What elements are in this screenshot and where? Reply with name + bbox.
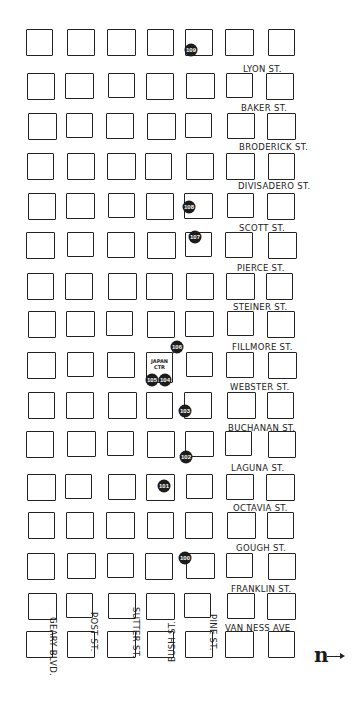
city-block — [186, 352, 213, 377]
city-block — [28, 512, 55, 539]
city-block — [67, 352, 94, 377]
city-block — [226, 73, 253, 98]
city-block — [66, 193, 95, 219]
street-label-divisadero-st: DIVISADERO ST. — [238, 181, 310, 191]
city-block — [227, 193, 254, 218]
city-block — [226, 352, 254, 378]
city-block — [108, 193, 135, 218]
city-block — [66, 113, 93, 138]
city-block — [67, 153, 95, 180]
location-marker-105[interactable]: 105 — [146, 374, 159, 387]
street-label-laguna-st: LAGUNA ST. — [231, 463, 285, 473]
city-block — [28, 193, 56, 220]
city-block — [146, 593, 175, 620]
city-block — [227, 392, 256, 419]
location-marker-100[interactable]: 100 — [179, 552, 192, 565]
location-marker-108[interactable]: 108 — [183, 201, 196, 214]
street-label-geary-blvd: GEARY BLVD. — [48, 617, 58, 676]
city-block — [227, 113, 255, 139]
city-block — [28, 593, 57, 620]
city-block — [65, 474, 92, 499]
city-block — [267, 593, 296, 620]
city-block — [27, 273, 54, 300]
street-label-lyon-st: LYON ST. — [243, 64, 282, 74]
city-block — [106, 512, 135, 539]
city-block — [268, 352, 297, 379]
city-block — [67, 431, 96, 457]
city-block — [226, 474, 254, 500]
city-block — [266, 474, 295, 501]
city-block — [106, 311, 133, 336]
street-label-steiner-st: STEINER ST. — [233, 302, 287, 312]
street-label-franklin-st: FRANKLIN ST. — [231, 584, 291, 594]
city-block — [145, 553, 173, 580]
city-block — [28, 392, 55, 419]
city-block — [186, 73, 215, 99]
city-block — [147, 232, 176, 259]
city-block — [107, 553, 134, 578]
city-block — [27, 553, 55, 580]
city-block — [26, 29, 53, 56]
city-block — [107, 153, 136, 180]
location-marker-104[interactable]: 104 — [159, 374, 172, 387]
city-block — [227, 593, 255, 619]
location-marker-106[interactable]: 106 — [171, 341, 184, 354]
city-block — [267, 193, 295, 220]
street-label-pine-st: PINE ST. — [208, 614, 218, 651]
city-block — [26, 431, 54, 458]
city-block — [268, 153, 295, 180]
street-label-baker-st: BAKER ST. — [241, 103, 287, 113]
city-block — [185, 512, 213, 539]
street-label-post-st: POST ST. — [89, 612, 99, 652]
city-block — [147, 311, 175, 338]
city-block — [226, 553, 253, 578]
city-block — [108, 273, 137, 300]
city-block — [107, 431, 134, 456]
city-block — [107, 232, 135, 258]
street-label-buchanan-st: BUCHANAN ST. — [228, 423, 295, 433]
city-block — [227, 311, 254, 336]
city-block — [67, 553, 96, 579]
city-block — [268, 553, 296, 580]
city-block — [65, 73, 94, 99]
north-arrow-icon — [327, 656, 341, 657]
city-block — [108, 474, 136, 500]
location-marker-102[interactable]: 102 — [180, 451, 193, 464]
city-block — [27, 352, 56, 379]
city-block — [267, 113, 296, 140]
street-label-scott-st: SCOTT ST. — [239, 223, 285, 233]
street-label-octavia-st: OCTAVIA ST. — [233, 503, 288, 513]
city-block — [28, 311, 56, 338]
city-block — [147, 431, 175, 458]
location-marker-103[interactable]: 103 — [179, 405, 192, 418]
city-block — [185, 113, 212, 138]
location-marker-107[interactable]: 107 — [189, 231, 202, 244]
street-label-sutter-st: SUTTER ST. — [131, 607, 141, 658]
location-marker-101[interactable]: 101 — [158, 480, 171, 493]
city-block — [227, 512, 256, 539]
street-label-fillmore-st: FILLMORE ST. — [232, 342, 293, 352]
city-block — [66, 512, 94, 539]
city-block — [147, 113, 176, 140]
street-label-gough-st: GOUGH ST. — [236, 543, 286, 553]
city-block — [146, 273, 173, 300]
street-label-van-ness-ave: VAN NESS AVE — [225, 623, 290, 633]
city-block — [266, 73, 294, 100]
street-label-webster-st: WEBSTER ST. — [230, 382, 290, 392]
city-block — [108, 392, 137, 419]
city-block — [226, 153, 255, 180]
city-block — [226, 273, 255, 300]
city-block — [268, 431, 296, 458]
city-block — [145, 153, 172, 180]
city-block — [26, 232, 55, 259]
street-label-pierce-st: PIERCE ST. — [237, 263, 285, 273]
city-block — [147, 29, 174, 56]
city-block — [268, 631, 295, 658]
city-block — [268, 232, 297, 259]
city-block — [106, 113, 134, 139]
location-marker-109[interactable]: 109 — [185, 44, 198, 57]
city-block — [267, 512, 294, 539]
street-label-broderick-st: BRODERICK ST. — [239, 142, 308, 152]
city-block — [267, 311, 295, 338]
city-block — [146, 73, 174, 100]
